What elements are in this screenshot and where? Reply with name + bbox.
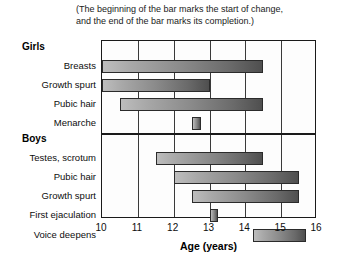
puberty-timeline-chart: Girls Boys BreastsGrowth spurtPubic hair… <box>0 36 340 272</box>
range-bar <box>192 117 201 130</box>
chart-row <box>102 187 315 206</box>
row-label: Menarche <box>0 117 96 128</box>
range-bar <box>102 60 263 73</box>
chart-caption: (The beginning of the bar marks the star… <box>76 4 334 27</box>
group-divider <box>102 133 315 134</box>
row-label: Breasts <box>0 60 96 71</box>
range-bar <box>102 79 210 92</box>
x-tick-label: 15 <box>268 222 292 233</box>
chart-row <box>102 95 315 114</box>
x-tick-label: 14 <box>232 222 256 233</box>
range-bar <box>210 209 219 222</box>
chart-row <box>102 76 315 95</box>
group-label-boys: Boys <box>0 133 96 144</box>
row-label: Pubic hair <box>0 98 96 109</box>
x-tick-label: 12 <box>161 222 185 233</box>
range-bar <box>192 190 300 203</box>
chart-row <box>102 114 315 133</box>
range-bar <box>120 98 263 111</box>
plot-area <box>101 40 316 218</box>
range-bar <box>156 152 264 165</box>
x-tick-label: 11 <box>125 222 149 233</box>
row-label: Pubic hair <box>0 171 96 182</box>
x-tick-label: 13 <box>197 222 221 233</box>
x-tick-label: 10 <box>89 222 113 233</box>
x-axis-title: Age (years) <box>101 240 316 252</box>
range-bar <box>174 171 299 184</box>
row-label: Growth spurt <box>0 190 96 201</box>
row-label: First ejaculation <box>0 209 96 220</box>
row-label: Testes, scrotum <box>0 152 96 163</box>
row-label: Voice deepens <box>0 229 96 240</box>
chart-row <box>102 57 315 76</box>
group-label-girls: Girls <box>0 41 96 52</box>
caption-line-1: (The beginning of the bar marks the star… <box>76 4 334 16</box>
chart-row <box>102 149 315 168</box>
x-tick-label: 16 <box>304 222 328 233</box>
row-label: Growth spurt <box>0 79 96 90</box>
caption-line-2: and the end of the bar marks its complet… <box>76 16 334 28</box>
chart-row <box>102 168 315 187</box>
